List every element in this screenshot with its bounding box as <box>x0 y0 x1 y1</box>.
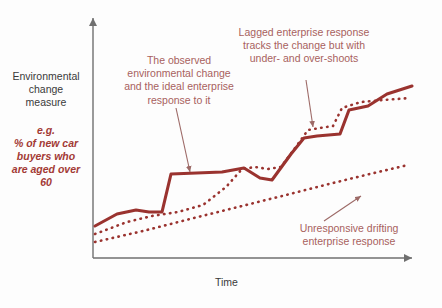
y-axis-example-line-2: % of new car <box>2 137 90 150</box>
arrow-observed <box>176 108 190 172</box>
y-axis-example-note: e.g. % of new car buyers who are aged ov… <box>2 124 90 189</box>
y-axis-label: Environmental change measure <box>4 70 88 109</box>
y-axis-example-line-4: are aged over <box>2 163 90 176</box>
annotation-lagged-response: Lagged enterprise response tracks the ch… <box>236 26 372 66</box>
series-lagged-response <box>95 98 410 234</box>
y-axis-label-line-1: Environmental <box>4 70 88 83</box>
figure-canvas: Environmental change measure e.g. % of n… <box>0 0 442 308</box>
annotation-unresponsive-response: Unresponsive drifting enterprise respons… <box>285 222 413 248</box>
y-axis-example-line-3: buyers who <box>2 150 90 163</box>
series-observed-change <box>95 86 412 226</box>
arrow-unresponsive <box>324 196 361 221</box>
y-axis-example-line-5: 60 <box>2 176 90 189</box>
y-axis-label-line-3: measure <box>4 96 88 109</box>
x-axis-label: Time <box>215 276 238 288</box>
y-axis-label-line-2: change <box>4 83 88 96</box>
annotation-observed-change: The observed environmental change and th… <box>118 54 240 107</box>
arrow-lagged <box>306 80 313 127</box>
y-axis-example-line-1: e.g. <box>2 124 90 137</box>
